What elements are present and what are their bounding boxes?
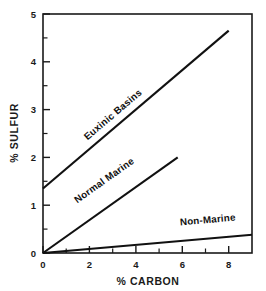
chart-svg: 5 4 3 2 1 0 0 2 4 6 8 % CARBON % SULFUR …: [0, 0, 266, 291]
x-tick-label-0: 0: [40, 259, 45, 270]
x-tick-label-6: 6: [180, 259, 185, 270]
chart-figure: 5 4 3 2 1 0 0 2 4 6 8 % CARBON % SULFUR …: [0, 0, 266, 291]
y-tick-label-1: 1: [31, 200, 37, 211]
x-tick-label-4: 4: [133, 259, 139, 270]
series-line-non-marine: [43, 235, 252, 253]
y-tick-label-0: 0: [31, 248, 36, 259]
series-line-euxinic-basins: [43, 31, 229, 189]
y-axis-title: % SULFUR: [8, 103, 20, 163]
y-tick-label-5: 5: [31, 9, 37, 20]
series-label-euxinic-basins: Euxinic Basins: [82, 86, 145, 142]
series-label-normal-marine: Normal Marine: [72, 155, 136, 205]
y-tick-label-3: 3: [31, 104, 36, 115]
x-tick-label-8: 8: [226, 259, 231, 270]
series-label-non-marine: Non-Marine: [179, 212, 236, 228]
x-axis-major-ticks: [43, 246, 229, 253]
y-tick-label-4: 4: [31, 56, 37, 67]
x-tick-label-2: 2: [87, 259, 92, 270]
y-tick-label-2: 2: [31, 152, 36, 163]
x-axis-title: % CARBON: [116, 275, 179, 287]
